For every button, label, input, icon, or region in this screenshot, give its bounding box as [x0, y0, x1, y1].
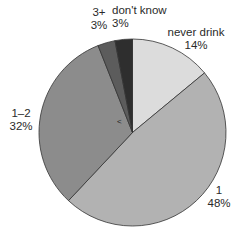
- label-1: 1 48%: [202, 184, 236, 210]
- label-3plus: 3+ 3%: [87, 6, 111, 32]
- annotation-mark: <: [117, 117, 122, 126]
- label-dont-know: don't know 3%: [112, 4, 172, 30]
- label-1-2: 1–2 32%: [4, 107, 38, 133]
- pie-slices: [39, 39, 226, 226]
